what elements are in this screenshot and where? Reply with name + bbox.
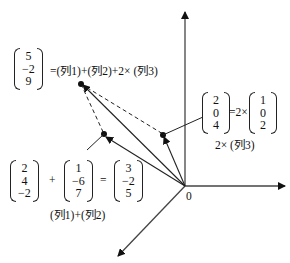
dashed-line-2: [81, 84, 163, 134]
caption-2col3: 2× (列3): [215, 136, 255, 152]
dashed-line-1: [81, 84, 104, 134]
vector-2col3: [164, 137, 185, 186]
matrix-2col3: 204: [202, 92, 230, 134]
matrix-col2: 1−67: [64, 160, 93, 202]
caption-col1-col2: (列1)+(列2): [50, 206, 105, 222]
origin-label: 0: [186, 190, 192, 202]
point-sum: [78, 81, 84, 87]
matrix-col3: 102: [249, 92, 277, 134]
equation-label: =(列1)+(列2)+2× (列3): [50, 62, 158, 78]
matrix-col1-plus-col2: 3−25: [114, 160, 143, 202]
matrix-result: 5−29: [14, 48, 43, 90]
vector-diagram: [0, 0, 290, 263]
matrix-col1: 24−2: [10, 160, 39, 202]
